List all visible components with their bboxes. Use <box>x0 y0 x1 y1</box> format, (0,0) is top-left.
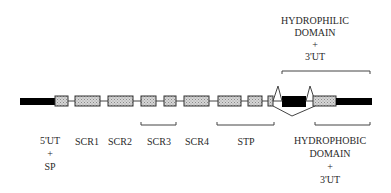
exon-scr3b <box>164 96 176 106</box>
exon-scr3a <box>141 96 156 106</box>
label-stp: STP <box>237 136 254 148</box>
label-line: + <box>40 147 60 160</box>
label-line: HYDROPHILIC <box>281 15 349 27</box>
splice-down <box>273 106 315 116</box>
exon-hydrophobic <box>313 96 336 106</box>
exon-sp <box>55 96 68 106</box>
label-scr1: SCR1 <box>75 136 99 148</box>
label-line: DOMAIN <box>281 27 349 39</box>
label-scr2: SCR2 <box>108 136 132 148</box>
label-line: DOMAIN <box>294 147 366 160</box>
label-line: 3'UT <box>281 51 349 63</box>
label-hydrophobic-domain: HYDROPHOBIC DOMAIN + 3'UT <box>294 134 366 186</box>
label-line: HYDROPHOBIC <box>294 134 366 147</box>
exon-stp-a <box>218 96 241 106</box>
bracket-scr3 <box>141 122 176 125</box>
label-line: + <box>281 39 349 51</box>
exon-scr4 <box>184 96 209 106</box>
utr-3-bar <box>336 98 372 105</box>
exon-stp-b <box>248 96 262 106</box>
exon-scr2 <box>108 96 133 106</box>
label-line: 5'UT <box>40 134 60 147</box>
splice-up-left <box>273 86 282 101</box>
exon-hydrophilic <box>282 96 306 107</box>
label-5ut-sp: 5'UT + SP <box>40 134 60 173</box>
exon-stp-c <box>268 96 273 106</box>
exon-scr1 <box>75 96 100 106</box>
utr-5-bar <box>20 98 56 105</box>
label-line: 3'UT <box>294 173 366 186</box>
label-line: SP <box>40 160 60 173</box>
label-scr3: SCR3 <box>147 136 171 148</box>
bracket-hydrophilic <box>282 71 370 74</box>
bracket-hydrophobic <box>315 122 370 125</box>
label-line: + <box>294 160 366 173</box>
label-hydrophilic-domain: HYDROPHILIC DOMAIN + 3'UT <box>281 15 349 63</box>
label-scr4: SCR4 <box>185 136 209 148</box>
bracket-stp <box>217 122 274 125</box>
